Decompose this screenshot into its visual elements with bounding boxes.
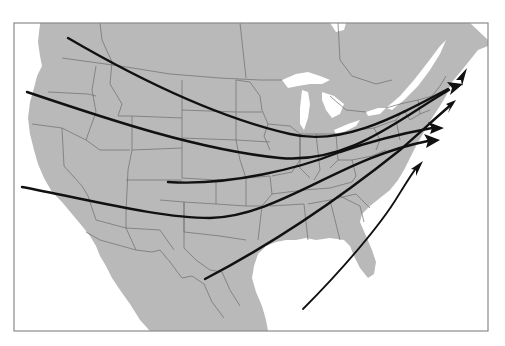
- map-canvas: [0, 0, 505, 346]
- north-america-map: [0, 0, 505, 346]
